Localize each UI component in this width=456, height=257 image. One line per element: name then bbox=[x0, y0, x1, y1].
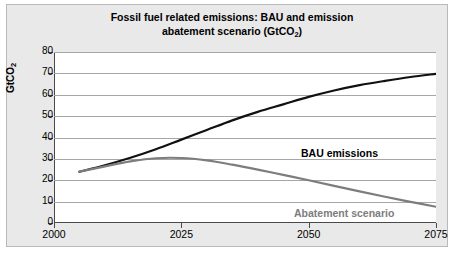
chart-title: Fossil fuel related emissions: BAU and e… bbox=[47, 10, 417, 40]
bau-emissions-label: BAU emissions bbox=[298, 147, 381, 159]
x-tick-label: 2025 bbox=[151, 228, 211, 240]
abatement-scenario-label: Abatement scenario bbox=[291, 207, 397, 219]
data-curves bbox=[54, 52, 436, 223]
chart-figure: Fossil fuel related emissions: BAU and e… bbox=[6, 4, 448, 247]
plot-area: 80706050403020100 2000202520502075 BAU e… bbox=[54, 52, 436, 223]
chart-title-line2-suffix: ) bbox=[299, 25, 303, 37]
chart-title-line2-prefix: abatement scenario (GtCO bbox=[162, 25, 294, 37]
y-tick-label: 0 bbox=[23, 216, 53, 227]
y-tick-label: 30 bbox=[23, 152, 53, 163]
abatement-scenario-line bbox=[79, 158, 436, 207]
y-tick-label: 40 bbox=[23, 131, 53, 142]
y-tick-label: 50 bbox=[23, 109, 53, 120]
y-axis-title-text: GtCO bbox=[5, 67, 16, 93]
x-tick-label: 2050 bbox=[279, 228, 339, 240]
chart-title-subscript: 2 bbox=[294, 30, 298, 39]
y-axis-title-subscript: 2 bbox=[9, 63, 18, 67]
chart-title-line1: Fossil fuel related emissions: BAU and e… bbox=[111, 11, 354, 23]
y-tick-label: 20 bbox=[23, 173, 53, 184]
y-tick-label: 70 bbox=[23, 66, 53, 77]
x-tick-label: 2000 bbox=[24, 228, 84, 240]
y-tick-label: 10 bbox=[23, 195, 53, 206]
y-tick-label: 60 bbox=[23, 88, 53, 99]
y-tick-label: 80 bbox=[23, 45, 53, 56]
y-axis-title: GtCO2 bbox=[5, 63, 16, 93]
bau-emissions-line bbox=[79, 74, 436, 172]
x-tick-label: 2075 bbox=[406, 228, 456, 240]
